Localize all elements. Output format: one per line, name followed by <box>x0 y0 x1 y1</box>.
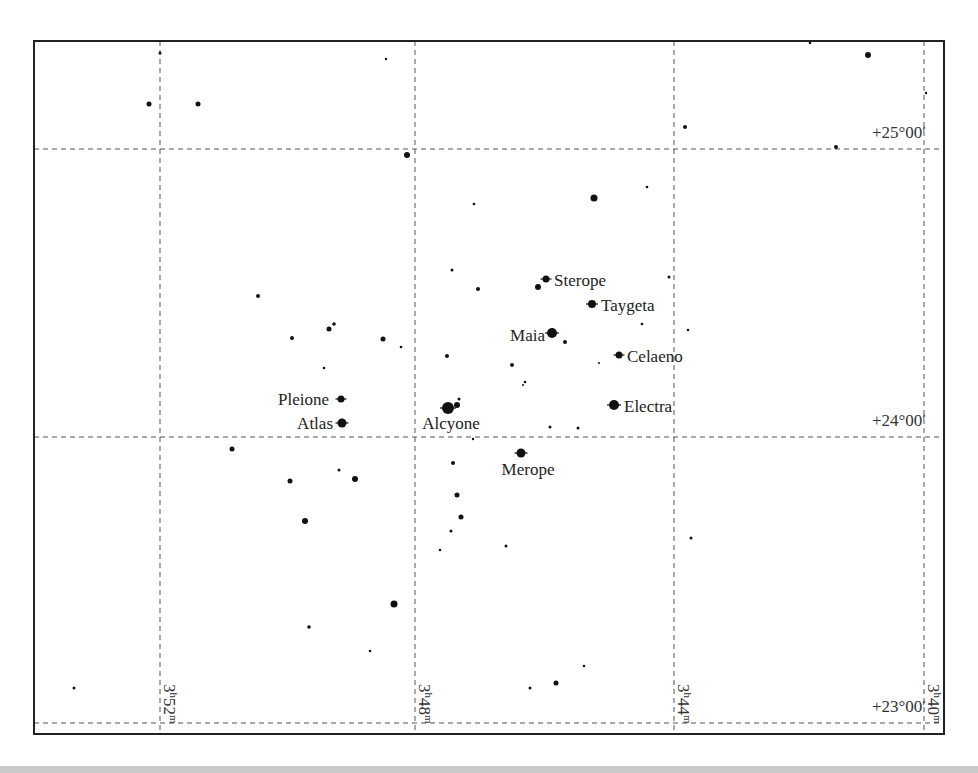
star-dot <box>455 493 460 498</box>
star-dot <box>445 354 449 358</box>
star-dot <box>554 681 559 686</box>
star-dot <box>646 186 649 189</box>
star-name-label: Atlas <box>297 414 333 433</box>
star-dot <box>454 402 460 408</box>
dec-label: +25°00′ <box>872 123 926 142</box>
star-dot <box>288 479 293 484</box>
star-dot <box>668 276 671 279</box>
star-name-label: Celaeno <box>627 347 683 366</box>
star-dot <box>563 340 567 344</box>
named-star-pleione: Pleione <box>278 390 347 409</box>
named-star-alcyone: Alcyone <box>422 402 480 433</box>
star-dot <box>472 438 474 440</box>
star-dot <box>690 537 693 540</box>
star-name-label: Alcyone <box>422 414 480 433</box>
star-name-label: Sterope <box>554 271 606 290</box>
star-dot <box>549 426 552 429</box>
star-dot <box>159 52 162 55</box>
star-dot <box>391 601 398 608</box>
ra-label: 3h40m <box>924 684 944 724</box>
named-star-sterope: Sterope <box>541 271 606 290</box>
grid-labels: 3h52m3h48m3h44m3h40m+25°00′+24°00′+23°00… <box>160 123 944 724</box>
bottom-band <box>0 766 978 773</box>
star-dot <box>256 294 260 298</box>
ra-label: 3h48m <box>415 684 435 724</box>
star-dot <box>809 42 812 45</box>
star-dot <box>524 381 527 384</box>
star-dot <box>522 384 524 386</box>
star-dot <box>451 269 454 272</box>
star-dot <box>473 203 476 206</box>
star-chart: SteropeTaygetaMaiaCelaenoElectraPleioneA… <box>0 0 978 773</box>
star-dot <box>529 687 532 690</box>
named-star-taygeta: Taygeta <box>586 296 655 315</box>
star-dot <box>327 327 332 332</box>
star-dot <box>302 518 308 524</box>
star-dot <box>510 363 514 367</box>
dec-label: +24°00′ <box>872 411 926 430</box>
named-star-electra: Electra <box>607 397 673 416</box>
background-stars <box>73 42 928 690</box>
star-dot <box>196 102 201 107</box>
star-name-label: Merope <box>502 460 555 479</box>
named-star-atlas: Atlas <box>297 414 348 433</box>
star-dot <box>381 337 386 342</box>
star-dot <box>535 284 541 290</box>
star-dot <box>147 102 152 107</box>
star-dot <box>369 650 372 653</box>
star-name-label: Electra <box>624 397 673 416</box>
star-dot <box>332 322 336 326</box>
ra-label: 3h52m <box>160 684 180 724</box>
coordinate-grid <box>34 41 944 734</box>
star-dot <box>865 52 871 58</box>
star-dot <box>400 346 403 349</box>
star-dot <box>459 515 464 520</box>
star-dot <box>450 530 453 533</box>
star-dot <box>687 329 690 332</box>
star-dot <box>683 125 687 129</box>
star-dot <box>925 92 927 94</box>
named-star-merope: Merope <box>502 449 555 480</box>
star-dot <box>505 545 508 548</box>
star-dot <box>323 367 326 370</box>
star-dot <box>476 287 480 291</box>
named-star-maia: Maia <box>510 326 559 345</box>
star-name-label: Pleione <box>278 390 329 409</box>
star-dot <box>458 398 461 401</box>
star-dot <box>583 665 586 668</box>
star-dot <box>385 58 387 60</box>
star-name-label: Taygeta <box>601 296 655 315</box>
ra-label: 3h44m <box>674 684 694 724</box>
star-dot <box>73 687 76 690</box>
star-dot <box>451 461 455 465</box>
named-star-celaeno: Celaeno <box>614 347 683 366</box>
star-dot <box>834 145 838 149</box>
star-dot <box>439 549 442 552</box>
star-dot <box>598 362 600 364</box>
star-dot <box>641 323 644 326</box>
star-dot <box>290 336 294 340</box>
star-dot <box>230 447 235 452</box>
star-name-label: Maia <box>510 326 545 345</box>
named-stars: SteropeTaygetaMaiaCelaenoElectraPleioneA… <box>278 271 683 479</box>
star-dot <box>591 195 598 202</box>
dec-label: +23°00′ <box>872 697 926 716</box>
star-dot <box>577 427 580 430</box>
star-dot <box>352 476 358 482</box>
star-dot <box>307 625 311 629</box>
star-dot <box>338 469 341 472</box>
chart-frame <box>34 41 944 734</box>
star-dot <box>404 152 410 158</box>
